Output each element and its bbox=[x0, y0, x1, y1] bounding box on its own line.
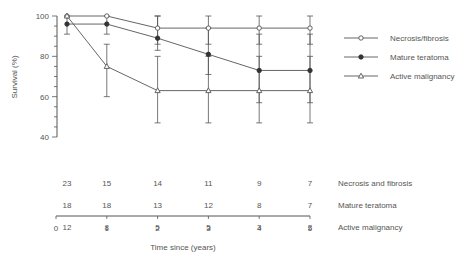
x-tick-label: 4 bbox=[257, 224, 262, 233]
filled-circle-marker-icon bbox=[105, 22, 109, 26]
filled-circle-marker-icon bbox=[308, 68, 312, 72]
at-risk-count: 11 bbox=[204, 179, 213, 188]
y-tick-label: 40 bbox=[40, 133, 49, 142]
at-risk-count: 12 bbox=[63, 223, 72, 232]
x-tick-label: 2 bbox=[155, 224, 160, 233]
legend-label: Active malignancy bbox=[390, 72, 454, 81]
at-risk-count: 18 bbox=[63, 201, 72, 210]
legend-label: Necrosis/fibrosis bbox=[390, 34, 449, 43]
series-lines bbox=[67, 16, 310, 91]
at-risk-count: 23 bbox=[63, 179, 72, 188]
x-tick-label: 1 bbox=[105, 224, 110, 233]
survival-chart: 406080100 Survival (%) Necrosis/fibrosis… bbox=[0, 0, 468, 267]
x-tick-label: 3 bbox=[206, 224, 211, 233]
at-risk-table: 2315141197Necrosis and fibrosis181813128… bbox=[63, 179, 413, 232]
open-circle-marker-icon bbox=[155, 26, 159, 30]
series-markers bbox=[64, 13, 312, 92]
x-axis-label: Time since (years) bbox=[150, 243, 216, 252]
filled-circle-marker-icon bbox=[206, 52, 210, 56]
y-tick-label: 100 bbox=[36, 12, 50, 21]
series-line bbox=[67, 16, 310, 28]
at-risk-count: 9 bbox=[257, 179, 262, 188]
y-axis-label: Survival (%) bbox=[10, 55, 19, 98]
x-tick-label: 0 bbox=[54, 224, 59, 233]
at-risk-count: 14 bbox=[153, 179, 162, 188]
y-tick-label: 60 bbox=[40, 93, 49, 102]
at-risk-count: 12 bbox=[204, 201, 213, 210]
open-circle-marker-icon bbox=[206, 26, 210, 30]
series-line bbox=[67, 24, 310, 70]
open-circle-marker-icon bbox=[359, 36, 363, 40]
y-axis: 406080100 bbox=[36, 12, 57, 142]
filled-circle-marker-icon bbox=[155, 36, 159, 40]
series-line bbox=[67, 16, 310, 91]
filled-circle-marker-icon bbox=[257, 68, 261, 72]
open-circle-marker-icon bbox=[257, 26, 261, 30]
open-circle-marker-icon bbox=[308, 26, 312, 30]
at-risk-count: 15 bbox=[102, 179, 111, 188]
at-risk-row-label: Mature teratoma bbox=[338, 201, 397, 210]
at-risk-count: 13 bbox=[153, 201, 162, 210]
at-risk-count: 18 bbox=[102, 201, 111, 210]
filled-circle-marker-icon bbox=[359, 55, 363, 59]
at-risk-count: 7 bbox=[308, 201, 313, 210]
legend-label: Mature teratoma bbox=[390, 53, 449, 62]
at-risk-count: 7 bbox=[308, 179, 313, 188]
y-tick-label: 80 bbox=[40, 52, 49, 61]
x-tick-label: 5 bbox=[308, 224, 313, 233]
at-risk-count: 8 bbox=[257, 201, 262, 210]
error-bars bbox=[64, 16, 313, 123]
filled-circle-marker-icon bbox=[65, 22, 69, 26]
at-risk-row-label: Necrosis and fibrosis bbox=[338, 179, 412, 188]
at-risk-row-label: Active malignancy bbox=[338, 223, 402, 232]
open-circle-marker-icon bbox=[105, 14, 109, 18]
legend: Necrosis/fibrosisMature teratomaActive m… bbox=[344, 34, 454, 81]
x-axis: 012345 bbox=[54, 216, 313, 233]
